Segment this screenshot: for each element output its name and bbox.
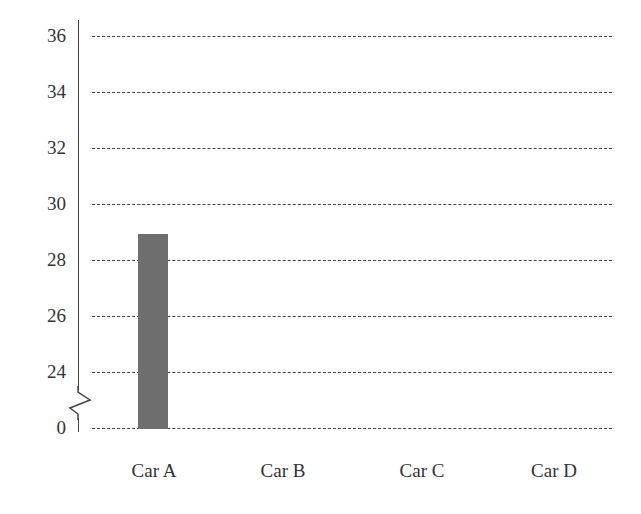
gridline [92,428,612,429]
y-tick-label: 24 [0,362,66,382]
gridline [92,372,612,373]
gridline [92,204,612,205]
x-tick-label: Car B [233,460,333,482]
y-tick-label: 28 [0,250,66,270]
x-tick-label: Car C [372,460,472,482]
y-tick-label: 30 [0,194,66,214]
y-tick-label: 0 [0,418,66,438]
y-axis-line-lower [78,418,79,432]
y-tick-label: 34 [0,82,66,102]
gridline [92,148,612,149]
bar-car-a [138,234,168,429]
y-tick-label: 36 [0,26,66,46]
x-tick-label: Car D [504,460,604,482]
gridline [92,316,612,317]
y-axis-line [78,20,79,390]
x-tick-label: Car A [104,460,204,482]
y-tick-label: 26 [0,306,66,326]
gridline [92,260,612,261]
y-tick-label: 32 [0,138,66,158]
axis-break-icon [64,386,94,420]
gridline [92,36,612,37]
gridline [92,92,612,93]
